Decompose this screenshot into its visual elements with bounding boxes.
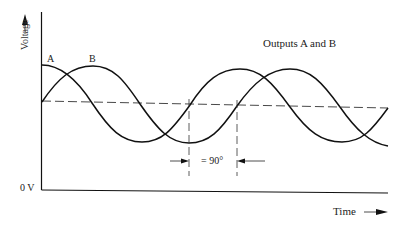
- x-axis: [42, 190, 389, 193]
- phase-annotation: = 90°: [201, 155, 223, 166]
- curve-a: [42, 65, 388, 142]
- time-arrow-icon: [364, 209, 388, 215]
- dimension-arrow-left-icon: [170, 159, 189, 164]
- x-axis-label: Time: [333, 205, 356, 217]
- y-axis-label: Voltage: [19, 20, 30, 50]
- chart-title: Outputs A and B: [263, 37, 336, 49]
- waveform-diagram: [0, 0, 407, 227]
- curve-a-label: A: [47, 53, 54, 64]
- curve-b-label: B: [89, 53, 96, 64]
- origin-label: 0 V: [20, 182, 35, 193]
- dimension-arrow-right-icon: [237, 159, 265, 164]
